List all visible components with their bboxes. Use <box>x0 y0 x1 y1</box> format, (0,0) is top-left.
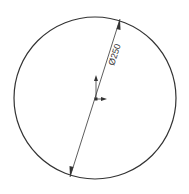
origin-axes-icon <box>94 75 107 101</box>
sketch: Ø250 <box>0 0 189 194</box>
dimension-label: Ø250 <box>106 43 122 67</box>
drawing-canvas: Ø250 <box>0 0 189 194</box>
